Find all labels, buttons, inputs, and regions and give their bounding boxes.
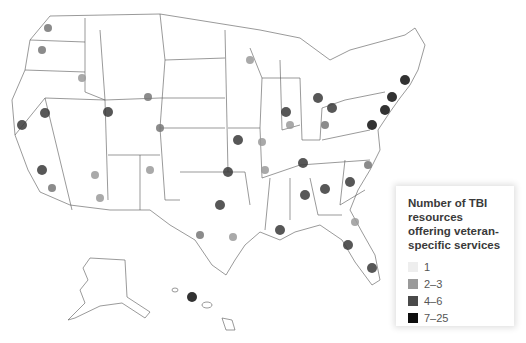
legend-swatch [408,296,418,306]
hotspot-cleveland [327,103,337,113]
legend-item-2-3: 2–3 [408,275,506,292]
hotspot-albuquerque [146,166,154,174]
hotspot-new-orleans [275,225,285,235]
legend-swatch [408,262,418,272]
legend-title: Number of TBI resources offering veteran… [408,196,506,252]
hotspot-atlanta [320,184,330,194]
hotspot-dallas [215,200,225,210]
legend-label: 1 [424,261,430,273]
hotspot-nashville [298,158,308,168]
hotspot-phoenix [91,171,99,179]
hotspot-tucson [96,194,104,202]
hotspot-memphis [261,166,269,174]
hotspot-kansas-city [233,135,243,145]
hotspot-st-louis [258,138,266,146]
hotspot-charlotte [345,177,355,187]
hotspot-los-angeles [37,165,47,175]
resource-hotspots [17,24,410,302]
hotspot-washington-dc [367,120,377,130]
legend-item-4-6: 4–6 [408,292,506,309]
hotspot-indianapolis [286,121,294,129]
legend-swatch [408,313,418,323]
hotspot-philadelphia [380,105,390,115]
legend-label: 4–6 [424,295,442,307]
hotspot-hawaii [187,292,197,302]
legend-item-1: 1 [408,258,506,275]
legend-item-7-25: 7–25 [408,309,506,326]
state-borders [12,14,425,330]
hotspot-jacksonville [351,218,359,226]
legend-label: 7–25 [424,312,448,324]
hotspot-chicago [281,107,291,117]
hotspot-detroit [313,93,323,103]
hotspot-tampa [343,240,353,250]
hotspot-new-york [387,92,397,102]
hotspot-minneapolis [246,56,254,64]
hotspot-houston [229,233,237,241]
hotspot-denver [156,124,164,132]
hotspot-miami [367,263,377,273]
hotspot-cheyenne-area [144,93,152,101]
hotspot-san-antonio [196,231,204,239]
hotspot-salt-lake [103,107,113,117]
hotspot-san-diego [48,184,56,192]
hotspot-reno [40,108,50,118]
hotspot-columbus [321,121,329,129]
hotspot-sf-bay [17,120,27,130]
hotspot-raleigh [364,161,372,169]
hotspot-boston [400,75,410,85]
hotspot-oklahoma-city [223,167,233,177]
hotspot-boise [78,74,86,82]
hotspot-seattle [44,24,52,32]
legend: Number of TBI resources offering veteran… [396,186,514,326]
hotspot-birmingham [300,190,310,200]
legend-swatch [408,279,418,289]
hotspot-portland [38,46,46,54]
legend-label: 2–3 [424,278,442,290]
